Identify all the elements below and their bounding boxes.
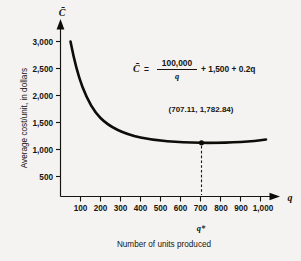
equation-numerator: 100,000	[162, 58, 193, 68]
minimum-point-dot	[199, 140, 204, 145]
x-tick-label-100: 100	[74, 204, 88, 213]
y-tick-label-1000: 1,000	[33, 146, 54, 155]
equation-remainder: + 1,500 + 0.2q	[201, 64, 255, 74]
x-tick-label-400: 400	[134, 204, 148, 213]
x-axis-symbol: q	[288, 192, 293, 203]
x-tick-label-200: 200	[94, 204, 108, 213]
y-axis-tick-labels: 500 1,000 1,500 2,000 2,500 3,000	[33, 38, 54, 182]
y-tick-label-3000: 3,000	[33, 38, 54, 47]
x-axis	[61, 193, 281, 201]
equation-equals-sign: =	[144, 64, 149, 74]
figure-container: 500 1,000 1,500 2,000 2,500 3,000 100 20…	[0, 0, 301, 261]
equation-lhs: C̄	[133, 63, 140, 74]
y-axis	[57, 19, 65, 197]
minimum-point-label: (707.11, 1,782.84)	[169, 105, 234, 114]
equation-annotation: C̄ = 100,000 q + 1,500 + 0.2q	[133, 58, 255, 81]
y-tick-label-1500: 1,500	[33, 119, 54, 128]
x-tick-label-800: 800	[214, 204, 228, 213]
x-tick-label-600: 600	[174, 204, 188, 213]
x-tick-label-1000: 1,000	[253, 204, 274, 213]
q-star-label: q*	[197, 223, 206, 233]
x-axis-tick-labels: 100 200 300 400 500 600 700 800 900 1,00…	[74, 204, 274, 213]
x-tick-label-300: 300	[114, 204, 128, 213]
y-axis-symbol: C̄	[59, 7, 66, 18]
y-tick-label-2000: 2,000	[33, 92, 54, 101]
x-tick-label-500: 500	[154, 204, 168, 213]
y-tick-label-500: 500	[39, 173, 53, 182]
y-tick-label-2500: 2,500	[33, 65, 54, 74]
y-axis-title: Average cost/unit, in dollars	[20, 68, 29, 168]
x-axis-arrowhead	[270, 193, 281, 201]
x-axis-title: Number of units produced	[117, 240, 212, 249]
x-tick-label-700: 700	[194, 204, 208, 213]
y-axis-arrowhead	[57, 19, 65, 30]
minimum-point-group: (707.11, 1,782.84)	[169, 105, 234, 195]
equation-denominator: q	[175, 71, 180, 81]
average-cost-chart: 500 1,000 1,500 2,000 2,500 3,000 100 20…	[0, 0, 301, 261]
x-tick-label-900: 900	[234, 204, 248, 213]
cost-curve	[71, 42, 267, 143]
